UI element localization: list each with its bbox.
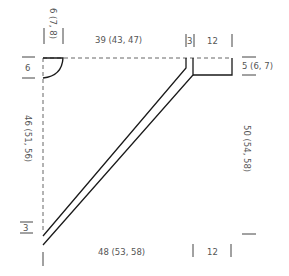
neck-width-label: 6 (7, 8)	[48, 8, 58, 39]
bottom-strap-label: 3	[23, 223, 28, 233]
neck-curve	[43, 58, 63, 78]
shoulder-box	[193, 58, 232, 75]
strap-outer-line	[43, 58, 186, 236]
strap-width-label: 3	[187, 36, 192, 46]
neck-depth-label: 6	[25, 63, 30, 73]
bottom-right-width-label: 12	[207, 247, 218, 257]
schematic-diagram: 6 (7, 8) 39 (43, 47) 3 12 6 5 (6, 7) 46 …	[0, 0, 289, 276]
left-height-label: 46 (51, 56)	[23, 115, 33, 162]
right-height-label: 50 (54, 58)	[242, 125, 252, 172]
shoulder-top-label: 12	[207, 36, 218, 46]
top-width-label: 39 (43, 47)	[95, 35, 142, 45]
shoulder-height-label: 5 (6, 7)	[242, 61, 273, 71]
bottom-width-label: 48 (53, 58)	[98, 247, 145, 257]
